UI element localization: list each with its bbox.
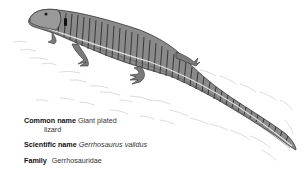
common-name-row: Common name Giant plated lizard [24,116,224,134]
common-name-value: Giant plated [78,116,117,125]
species-caption: Common name Giant plated lizard Scientif… [24,116,224,172]
family-label: Family [24,156,47,165]
family-value: Gerrhosauridae [52,156,102,165]
scientific-name-value: Gerrhosaurus validus [79,140,147,149]
family-row: Family Gerrhosauridae [24,156,224,165]
common-name-label: Common name [24,116,76,125]
common-name-value-continued: lizard [24,125,224,134]
scientific-name-label: Scientific name [24,140,77,149]
scientific-name-row: Scientific name Gerrhosaurus validus [24,140,224,149]
